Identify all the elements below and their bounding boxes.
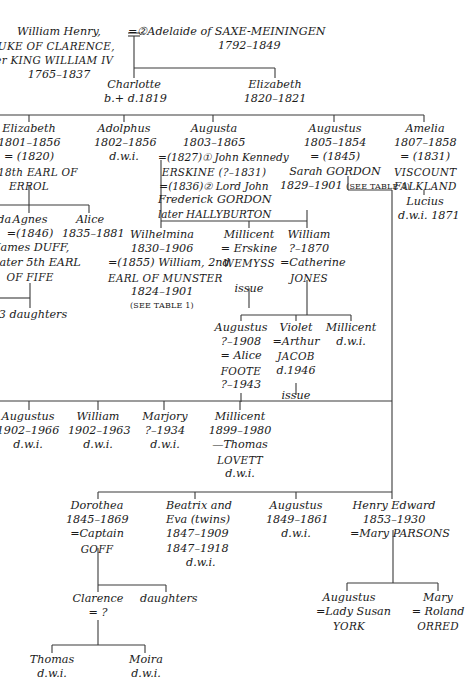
wilhelmina-spouse: EARL OF MUNSTER (108, 271, 216, 285)
amelia-node: Amelia 1807–1858 = (1831) VISCOUNT FALKL… (394, 122, 456, 193)
elizabeth-1801-name: Elizabeth (0, 122, 60, 136)
moira-name: Moira (122, 653, 170, 667)
william-1902-dates: 1902–1963 (68, 424, 128, 438)
beatrix-eva-node: Beatrix and Eva (twins) 1847–1909 1847–1… (166, 499, 236, 570)
beatrix-dates: 1847–1909 (166, 527, 236, 541)
william-iv-dates: 1765–1837 (0, 68, 118, 82)
augustus-1908-spouse-dates: ?–1943 (210, 378, 272, 392)
elizabeth-1801-dates: 1801–1856 (0, 136, 60, 150)
william-1870-spouse-surname: JONES (280, 271, 338, 285)
augustus-1849-name: Augustus (266, 499, 326, 513)
dorothea-name: Dorothea (66, 499, 128, 513)
adolphus-name: Adolphus (94, 122, 154, 136)
agnes-name: Agnes (0, 213, 64, 227)
millicent-1899-note: d.w.i. (208, 467, 272, 481)
augustus-1908-node: Augustus ?–1908 = Alice FOOTE ?–1943 (210, 321, 272, 392)
three-daughters-node: 3 daughters (0, 308, 68, 322)
augustus-1908-dates: ?–1908 (210, 335, 272, 349)
clarence-spouse: = ? (72, 606, 124, 620)
lucius-node: Lucius d.w.i. 1871 (398, 195, 452, 223)
william-iv-name: William Henry, (0, 25, 118, 39)
augustus-1805-node: Augustus 1805–1854 = (1845) Sarah GORDON… (280, 122, 390, 194)
amelia-marriage: = (1831) (394, 150, 456, 164)
adelaide-dates: 1792–1849 (128, 39, 326, 53)
augustus-1805-spouse-dates: 1829–1901 (SEE TABLE 1) (280, 179, 390, 194)
violet-spouse: =Arthur (270, 335, 322, 349)
dorothea-spouse: =Captain (66, 527, 128, 541)
moira-note: d.w.i. (122, 667, 170, 681)
amelia-spouse-2: FALKLAND (394, 179, 456, 193)
millicent-spouse-surname: WEMYSS (218, 256, 280, 270)
augustus-1902-dates: 1902–1966 (0, 424, 60, 438)
agnes-spouse-title-2: OF FIFE (0, 270, 64, 284)
violet-name: Violet (270, 321, 322, 335)
augustus-1902-node: Augustus 1902–1966 d.w.i. (0, 410, 60, 453)
wilhelmina-dates: 1830–1906 (108, 242, 216, 256)
millicent-1899-dates: 1899–1980 (208, 424, 272, 438)
marjory-node: Marjory ?–1934 d.w.i. (138, 410, 192, 453)
william-1870-node: William ?–1870 =Catherine JONES (280, 228, 338, 285)
mary-orred-node: Mary = Roland ORRED (408, 591, 468, 634)
amelia-spouse: VISCOUNT (394, 165, 456, 179)
thomas-note: d.w.i. (26, 667, 78, 681)
clarence-name: Clarence (72, 592, 124, 606)
augusta-spouse-2: Frederick GORDON (158, 193, 270, 207)
adolphus-dates: 1802–1856 (94, 136, 154, 150)
william-iv-title-king: later KING WILLIAM IV (0, 53, 118, 67)
agnes-spouse: James DUFF, (0, 241, 64, 255)
dorothea-spouse-surname: GOFF (66, 542, 128, 556)
millicent-1899-spouse-surname: LOVETT (208, 453, 272, 467)
elizabeth-1801-node: Elizabeth 1801–1856 = (1820) 18th EARL O… (0, 122, 60, 193)
william-1870-spouse: =Catherine (280, 256, 338, 270)
adelaide-marriage: =②Adelaide of SAXE-MEININGEN (128, 25, 326, 39)
daughters-label: daughters (140, 592, 196, 606)
augustus-1902-name: Augustus (0, 410, 60, 424)
augustus-1849-note: d.w.i. (266, 527, 326, 541)
wilhelmina-spouse-dates: 1824–1901 (108, 285, 216, 299)
augustus-1902-note: d.w.i. (0, 438, 60, 452)
violet-node: Violet =Arthur JACOB d.1946 issue (270, 321, 322, 403)
agnes-spouse-title: later 5th EARL (0, 256, 64, 270)
charlotte-dates: b.+ d.1819 (104, 92, 164, 106)
millicent-1899-spouse: —Thomas (208, 438, 272, 452)
millicent-spouse: = Erskine (218, 242, 280, 256)
beatrix-name: Beatrix and (166, 499, 236, 513)
augustus-1805-marriage: = (1845) (280, 150, 390, 164)
three-daughters-label: 3 daughters (0, 308, 68, 322)
millicent-dwi-node: Millicent d.w.i. (322, 321, 380, 349)
augusta-spouse-1: ERSKINE (?–1831) (158, 165, 270, 179)
augusta-spouse-2-later: later HALLYBURTON (158, 207, 270, 221)
elizabeth-1820-node: Elizabeth 1820–1821 (240, 78, 310, 106)
charlotte-name: Charlotte (104, 78, 164, 92)
clarence-node: Clarence = ? (72, 592, 124, 620)
lucius-note: d.w.i. 1871 (398, 209, 452, 223)
augustus-1805-name: Augustus (280, 122, 390, 136)
amelia-dates: 1807–1858 (394, 136, 456, 150)
augustus-york-spouse: =Lady Susan (316, 605, 382, 619)
lucius-name: Lucius (398, 195, 452, 209)
augustus-1908-spouse: = Alice (210, 349, 272, 363)
william-iv-title: DUKE OF CLARENCE, (0, 39, 118, 53)
augustus-1805-dates: 1805–1854 (280, 136, 390, 150)
millicent-issue: issue (218, 282, 280, 296)
mary-spouse-surname: ORRED (408, 619, 468, 633)
elizabeth-1801-marriage: = (1820) (0, 150, 60, 164)
spouse-dates: 1829–1901 (280, 179, 343, 192)
augusta-marriage-1: =(1827)① John Kennedy (158, 150, 270, 164)
dorothea-node: Dorothea 1845–1869 =Captain GOFF (66, 499, 128, 556)
henry-edward-node: Henry Edward 1853–1930 =Mary PARSONS (350, 499, 438, 542)
wilhelmina-marriage: =(1855) William, 2nd (108, 256, 216, 270)
marjory-dates: ?–1934 (138, 424, 192, 438)
millicent-1899-name: Millicent (208, 410, 272, 424)
violet-spouse-dates: d.1946 (270, 364, 322, 378)
thomas-node: Thomas d.w.i. (26, 653, 78, 681)
amelia-name: Amelia (394, 122, 456, 136)
dorothea-dates: 1845–1869 (66, 513, 128, 527)
henry-edward-name: Henry Edward (350, 499, 438, 513)
william-1902-name: William (68, 410, 128, 424)
mary-name: Mary (408, 591, 468, 605)
marjory-name: Marjory (138, 410, 192, 424)
william-1902-node: William 1902–1963 d.w.i. (68, 410, 128, 453)
thomas-name: Thomas (26, 653, 78, 667)
adelaide-node: =②Adelaide of SAXE-MEININGEN 1792–1849 (128, 25, 326, 53)
